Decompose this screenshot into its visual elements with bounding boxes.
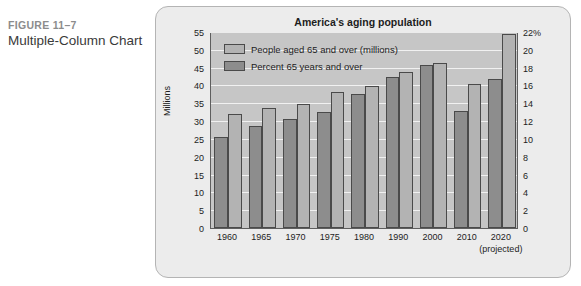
bar-people-65-and-over[interactable] bbox=[228, 114, 242, 228]
y-axis-right-tick-label: 6 bbox=[523, 172, 528, 181]
y-axis-left-tick-label: 45 bbox=[194, 65, 204, 74]
x-axis-tick-label: 2020 bbox=[484, 232, 518, 242]
y-axis-left-tick-label: 20 bbox=[194, 154, 204, 163]
bar-people-65-and-over[interactable] bbox=[502, 34, 516, 228]
y-axis-right-ticks: 0246810121416182022% bbox=[519, 33, 559, 229]
y-axis-left-ticks: 0510152025303540455055 bbox=[168, 33, 208, 229]
bar-percent-65-and-over[interactable] bbox=[386, 77, 400, 228]
y-axis-right-tick-label: 14 bbox=[523, 100, 533, 109]
y-axis-right-tick-label: 2 bbox=[523, 207, 528, 216]
y-axis-left-tick-label: 0 bbox=[199, 225, 204, 234]
bar-people-65-and-over[interactable] bbox=[365, 86, 379, 228]
x-axis-tick-label: 1965 bbox=[244, 232, 278, 242]
y-axis-right-tick-label: 4 bbox=[523, 189, 528, 198]
legend-swatch-dark bbox=[224, 61, 245, 71]
x-axis-tick-label: 2010 bbox=[450, 232, 484, 242]
y-axis-right-tick-label: 0 bbox=[523, 225, 528, 234]
bar-percent-65-and-over[interactable] bbox=[283, 119, 297, 228]
bar-group bbox=[454, 33, 481, 228]
y-axis-right-tick-label: 18 bbox=[523, 65, 533, 74]
bar-people-65-and-over[interactable] bbox=[433, 63, 447, 228]
x-axis-tick-label: 1960 bbox=[210, 232, 244, 242]
chart-title: America's aging population bbox=[168, 16, 558, 28]
legend-swatch-light bbox=[224, 44, 245, 54]
y-axis-right-tick-label: 8 bbox=[523, 154, 528, 163]
bar-people-65-and-over[interactable] bbox=[399, 72, 413, 228]
y-axis-right-tick-label: 22% bbox=[523, 29, 541, 38]
x-axis-tick-label: 1990 bbox=[381, 232, 415, 242]
bar-people-65-and-over[interactable] bbox=[262, 108, 276, 228]
y-axis-left-tick-label: 35 bbox=[194, 100, 204, 109]
y-axis-left-tick-label: 25 bbox=[194, 136, 204, 145]
x-axis-tick-label: 1975 bbox=[313, 232, 347, 242]
legend-label: Percent 65 years and over bbox=[251, 61, 362, 72]
y-axis-right-tick-label: 20 bbox=[523, 47, 533, 56]
legend-item[interactable]: Percent 65 years and over bbox=[224, 59, 398, 73]
y-axis-left-tick-label: 40 bbox=[194, 82, 204, 91]
figure-card: America's aging population Millions 0510… bbox=[155, 6, 571, 278]
y-axis-left-tick-label: 15 bbox=[194, 172, 204, 181]
x-axis-tick-label: 2000 bbox=[415, 232, 449, 242]
x-axis-labels: 196019651970197519801990200020102020(pro… bbox=[210, 232, 518, 262]
bar-percent-65-and-over[interactable] bbox=[488, 79, 502, 228]
bar-percent-65-and-over[interactable] bbox=[351, 94, 365, 228]
y-axis-left-tick-label: 30 bbox=[194, 118, 204, 127]
legend-item[interactable]: People aged 65 and over (millions) bbox=[224, 42, 398, 56]
bar-people-65-and-over[interactable] bbox=[468, 84, 482, 228]
figure-title: Multiple-Column Chart bbox=[8, 33, 148, 49]
x-axis-projected-note: (projected) bbox=[478, 244, 524, 254]
bar-percent-65-and-over[interactable] bbox=[317, 112, 331, 228]
bar-people-65-and-over[interactable] bbox=[297, 104, 311, 228]
figure-number: FIGURE 11–7 bbox=[8, 18, 148, 32]
bar-percent-65-and-over[interactable] bbox=[214, 137, 228, 228]
bar-people-65-and-over[interactable] bbox=[331, 92, 345, 228]
bar-group bbox=[488, 33, 515, 228]
bar-percent-65-and-over[interactable] bbox=[249, 126, 263, 228]
legend-label: People aged 65 and over (millions) bbox=[251, 44, 398, 55]
y-axis-right-tick-label: 10 bbox=[523, 136, 533, 145]
chart-legend: People aged 65 and over (millions)Percen… bbox=[224, 42, 398, 76]
bar-percent-65-and-over[interactable] bbox=[420, 65, 434, 228]
bar-group bbox=[420, 33, 447, 228]
chart: America's aging population Millions 0510… bbox=[168, 16, 558, 268]
x-axis-tick-label: 1980 bbox=[347, 232, 381, 242]
y-axis-left-tick-label: 10 bbox=[194, 189, 204, 198]
y-axis-left-tick-label: 55 bbox=[194, 29, 204, 38]
y-axis-right-tick-label: 16 bbox=[523, 82, 533, 91]
y-axis-left-tick-label: 5 bbox=[199, 207, 204, 216]
x-axis-tick-label: 1970 bbox=[278, 232, 312, 242]
bar-percent-65-and-over[interactable] bbox=[454, 111, 468, 228]
figure-caption: FIGURE 11–7 Multiple-Column Chart bbox=[8, 18, 148, 49]
y-axis-right-tick-label: 12 bbox=[523, 118, 533, 127]
y-axis-left-tick-label: 50 bbox=[194, 47, 204, 56]
